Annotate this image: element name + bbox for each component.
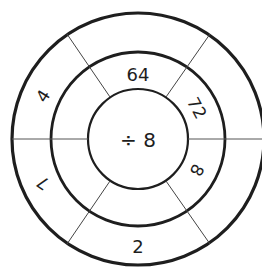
- outer-ring-lower-left-value: 7: [33, 172, 53, 195]
- divider-upper-left: [67, 34, 110, 97]
- middle-ring-lower-right-value: 8: [186, 161, 209, 180]
- division-wheel: ÷ 8 64 72 8 2 7 4: [0, 0, 262, 273]
- outer-ring-upper-left-value: 4: [32, 86, 55, 106]
- divider-upper-right: [166, 34, 210, 97]
- middle-ring-top-value: 64: [127, 64, 150, 85]
- divider-lower-right: [166, 181, 210, 244]
- outer-ring-bottom-value: 2: [132, 236, 143, 257]
- divider-lower-left: [67, 181, 110, 244]
- center-operation-label: ÷ 8: [120, 128, 156, 152]
- middle-ring-upper-right-value: 72: [183, 94, 211, 122]
